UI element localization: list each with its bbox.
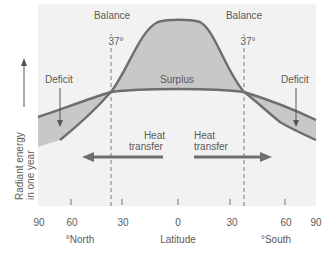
heat-transfer-label-south-line1: Heat [194, 130, 215, 141]
deficit-label-left: Deficit [45, 74, 73, 85]
balance-label-north: Balance [94, 10, 130, 21]
heat-transfer-label-north-line2: transfer [129, 141, 163, 152]
x-tick-60-north: 60 [66, 217, 77, 228]
surplus-label: Surplus [160, 74, 194, 85]
y-axis-label: Radiant energy in one year [14, 132, 36, 200]
heat-transfer-label-north-line1: Heat [145, 130, 165, 141]
balance-label-south: Balance [226, 10, 262, 21]
x-tick-90-north: 90 [33, 217, 44, 228]
x-tick-60-south: 60 [280, 217, 291, 228]
y-axis-label-line2: in one year [25, 132, 36, 200]
x-tick-0: 0 [175, 217, 181, 228]
heat-transfer-label-south-line2: transfer [194, 141, 228, 152]
x-tick-90-south: 90 [310, 217, 321, 228]
x-axis-label: Latitude [160, 234, 196, 245]
x-tick-30-north: 30 [117, 217, 128, 228]
deficit-label-right: Deficit [281, 74, 309, 85]
latitude-37-north: 37° [107, 36, 124, 47]
north-label: °North [66, 234, 94, 245]
y-axis-arrow [21, 58, 27, 107]
latitude-37-south: 37° [239, 36, 256, 47]
south-label: °South [261, 234, 291, 245]
x-tick-30-south: 30 [226, 217, 237, 228]
y-axis-label-line1: Radiant energy [14, 132, 25, 200]
diagram-canvas [0, 0, 334, 254]
